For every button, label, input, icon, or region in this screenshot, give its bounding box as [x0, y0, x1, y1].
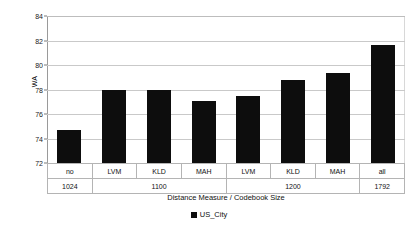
category-label-cell: LVM	[226, 164, 271, 179]
legend-swatch-icon	[191, 212, 197, 218]
bar[interactable]	[57, 130, 81, 163]
bar[interactable]	[371, 45, 395, 163]
group-label-cell: 1200	[226, 179, 360, 194]
plot-area: 84828078767472	[47, 16, 405, 163]
y-tick-label: 84	[35, 13, 43, 20]
bar-slot	[226, 16, 271, 163]
category-label-cell: all	[360, 164, 405, 179]
bar[interactable]	[281, 80, 305, 163]
category-label-row: noLVMKLDMAHLVMKLDMAHall	[48, 164, 405, 179]
bar-slot	[360, 16, 405, 163]
category-label-cell: MAH	[315, 164, 360, 179]
category-label-cell: KLD	[271, 164, 316, 179]
chart-legend: US_City	[0, 210, 418, 219]
bars-layer	[47, 16, 405, 163]
category-label-cell: LVM	[92, 164, 137, 179]
legend-label: US_City	[200, 210, 228, 219]
group-label-row: 1024110012001792	[48, 179, 405, 194]
x-axis-title: Distance Measure / Codebook Size	[47, 193, 405, 202]
bar[interactable]	[326, 73, 350, 163]
bar-slot	[271, 16, 316, 163]
bar-slot	[137, 16, 182, 163]
bar-slot	[316, 16, 361, 163]
y-tick-label: 80	[35, 62, 43, 69]
group-label-cell: 1792	[360, 179, 405, 194]
group-label-cell: 1024	[48, 179, 93, 194]
category-axis-table: noLVMKLDMAHLVMKLDMAHall 1024110012001792	[47, 163, 405, 194]
category-label-cell: KLD	[137, 164, 182, 179]
bar-slot	[181, 16, 226, 163]
y-tick-label: 72	[35, 160, 43, 167]
category-label-cell: MAH	[181, 164, 226, 179]
bar-slot	[47, 16, 92, 163]
y-tick-label: 74	[35, 135, 43, 142]
bar[interactable]	[236, 96, 260, 163]
bar[interactable]	[102, 90, 126, 164]
bar-chart: WA 84828078767472 noLVMKLDMAHLVMKLDMAHal…	[0, 0, 418, 235]
y-tick-label: 76	[35, 111, 43, 118]
bar[interactable]	[147, 90, 171, 164]
bar[interactable]	[192, 101, 216, 163]
category-label-cell: no	[48, 164, 93, 179]
bar-slot	[92, 16, 137, 163]
group-label-cell: 1100	[92, 179, 226, 194]
y-tick-label: 82	[35, 37, 43, 44]
y-tick-label: 78	[35, 86, 43, 93]
